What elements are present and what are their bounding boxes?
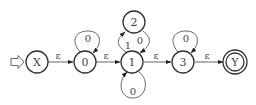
edge-label-X-0: ε xyxy=(55,50,60,61)
state-3: 3 xyxy=(172,51,194,73)
state-2: 2 xyxy=(123,11,145,33)
edge-label-1-3: ε xyxy=(153,50,158,61)
state-label: Y xyxy=(230,56,239,69)
edge-label-2-1: 0 xyxy=(137,35,143,46)
edge-label-0-0: 0 xyxy=(85,33,91,44)
edge-label-3-3: 0 xyxy=(183,33,189,44)
state-label: 3 xyxy=(180,56,187,69)
state-Y-accepting: Y xyxy=(223,50,247,74)
state-label: 0 xyxy=(82,56,89,69)
edge-label-1-1: 0 xyxy=(130,86,136,97)
edge-label-0-1: ε xyxy=(103,50,108,61)
start-arrow-icon xyxy=(11,56,24,69)
edge-label-1-2: 1 xyxy=(125,40,131,51)
state-0: 0 xyxy=(74,51,96,73)
state-1: 1 xyxy=(121,51,143,73)
state-label: 1 xyxy=(129,56,136,69)
automaton-diagram: ε 0 ε 1 0 0 ε 0 ε X 0 1 2 3 Y xyxy=(0,0,256,105)
state-X: X xyxy=(26,51,48,73)
state-label: 2 xyxy=(131,16,138,29)
edge-label-3-Y: ε xyxy=(204,50,209,61)
state-label: X xyxy=(33,56,41,69)
